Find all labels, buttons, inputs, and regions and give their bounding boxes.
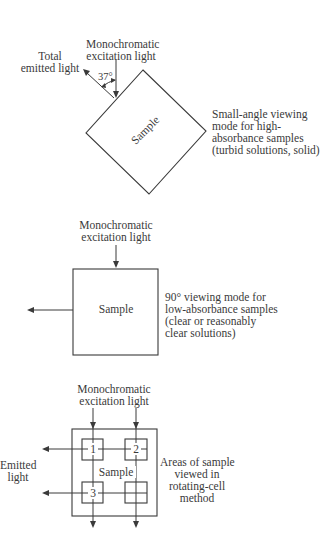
panel-middle-graphics [27,245,158,355]
middle-description-line1: 90° viewing mode for [165,291,266,303]
bottom-excitation-label-line1: Monochromatic [74,383,154,395]
middle-description-line3: (clear or reasonably [165,315,256,327]
top-description-line2: mode for high- [212,120,281,132]
emission-head-top [42,446,49,452]
top-description-line4: (turbid solutions, solid) [212,144,320,156]
area-number-2: 2 [131,443,141,455]
top-description-line1: Small-angle viewing [212,108,308,120]
bottom-sample-label: Sample [96,466,136,478]
excitation-arrow-head [113,261,119,268]
emitted-arrow-head [27,307,34,313]
top-description-line3: absorbance samples [212,132,304,144]
top-excitation-label-line1: Monochromatic [86,38,156,50]
area-number-1: 1 [88,443,98,455]
middle-description-line2: low-absorbance samples [165,303,278,315]
bottom-description-line4: method [160,492,234,504]
middle-excitation-label-line2: excitation light [76,231,156,243]
angle-label: 37° [98,71,113,83]
bottom-description-line1: Areas of sample [160,456,234,468]
area-number-3: 3 [88,487,98,499]
bottom-excitation-label-line2: excitation light [74,395,154,407]
middle-description-line4: clear solutions) [165,327,236,339]
transmit-head-left-out [90,521,96,528]
excitation-head-left-in [90,422,96,429]
bottom-emitted-label-line2: light [0,471,36,483]
bottom-emitted-label-line1: Emitted [0,459,36,471]
top-excitation-label-line2: excitation light [86,50,156,62]
top-emitted-label-line1: Total [20,50,80,62]
top-emitted-label-line2: emitted light [20,62,80,74]
bottom-description-line2: viewed in [160,468,234,480]
emission-head-bottom [42,490,49,496]
transmit-head-right-out [133,521,139,528]
excitation-head-right-in [133,422,139,429]
middle-sample-label: Sample [90,303,142,315]
bottom-description-line3: rotating-cell [160,480,234,492]
middle-excitation-label-line1: Monochromatic [76,219,156,231]
